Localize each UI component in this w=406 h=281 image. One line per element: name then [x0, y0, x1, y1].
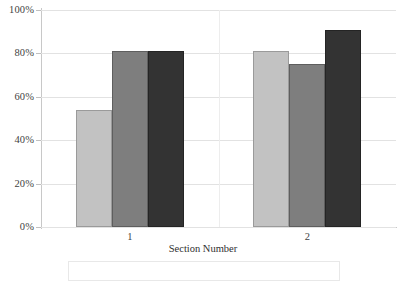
y-axis-tick-label: 80%	[14, 48, 34, 59]
x-axis-tick-label: 2	[277, 231, 337, 243]
x-axis-title: Section Number	[0, 243, 406, 255]
plot-area	[41, 10, 396, 227]
y-axis-tick-label: 100%	[9, 5, 34, 16]
x-axis-tick-label: 1	[100, 231, 160, 243]
bar	[148, 51, 184, 227]
y-axis-tick-label: 20%	[14, 179, 34, 190]
bar	[253, 51, 289, 227]
gridline-vertical	[219, 10, 220, 227]
y-axis-tick-label: 60%	[14, 92, 34, 103]
bar	[112, 51, 148, 227]
gridline-horizontal	[41, 227, 396, 228]
chart-legend	[68, 261, 340, 281]
y-axis-tick-label: 0%	[20, 222, 34, 233]
bar	[289, 64, 325, 227]
y-axis-tick-label: 40%	[14, 135, 34, 146]
bar	[76, 110, 112, 227]
bar	[325, 30, 361, 227]
